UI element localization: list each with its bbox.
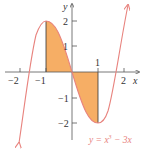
cubic-function-chart: −2 −1 1 2 x 2 1 −1 −2 y y = x3 − 3x — [0, 0, 143, 149]
equation-label: y = x3 − 3x — [88, 134, 133, 145]
x-tick-label-1: 1 — [95, 57, 100, 68]
y-tick-label-1: 1 — [63, 41, 68, 52]
y-tick-label-neg2: −2 — [58, 118, 69, 129]
y-tick-label-neg1: −1 — [58, 93, 69, 104]
y-axis-label: y — [62, 1, 68, 12]
y-tick-label-2: 2 — [63, 16, 68, 27]
x-tick-label-neg1: −1 — [35, 75, 46, 86]
x-tick-label-neg2: −2 — [8, 75, 19, 86]
x-axis-label: x — [132, 75, 138, 86]
x-tick-label-2: 2 — [121, 75, 126, 86]
